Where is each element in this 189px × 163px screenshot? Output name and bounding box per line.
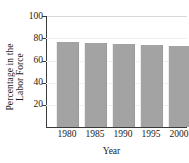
bar-chart-figure: Percentage in the Labor Force 100 80 60 … (0, 0, 189, 163)
x-tick-label-2000: 2000 (164, 130, 189, 140)
y-tick-label-20: 20 (19, 100, 43, 110)
y-tick-label-60: 60 (19, 56, 43, 66)
y-tick-label-80: 80 (19, 34, 43, 44)
bar-1990 (112, 44, 135, 127)
bar-2000 (168, 46, 189, 127)
x-tick-label-1980: 1980 (52, 130, 82, 140)
x-tick-label-1990: 1990 (108, 130, 138, 140)
y-tick-label-40: 40 (19, 78, 43, 88)
x-tick-label-1995: 1995 (136, 130, 166, 140)
bar-1995 (140, 45, 163, 127)
x-axis-title: Year (0, 146, 189, 156)
plot-area (46, 16, 187, 128)
x-axis-line (46, 127, 187, 128)
y-axis-tick-labels: 100 80 60 40 20 (17, 0, 43, 163)
x-tick-label-1985: 1985 (80, 130, 110, 140)
bar-1980 (56, 42, 79, 128)
bar-1985 (84, 43, 107, 127)
y-tick-label-100: 100 (19, 12, 43, 22)
x-axis-tick-labels: 1980 1985 1990 1995 2000 (46, 130, 189, 142)
bar-series (46, 16, 187, 127)
